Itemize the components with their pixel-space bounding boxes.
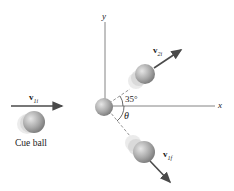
v1f-arrow <box>150 161 170 182</box>
y-axis-label: y <box>102 12 106 21</box>
angle-theta-label: θ <box>124 111 129 121</box>
ball-2-final <box>135 64 155 84</box>
cue-ball-final <box>133 141 155 163</box>
angle-35-label: 35° <box>125 95 138 104</box>
cue-ball-initial <box>23 111 45 133</box>
angle-arc-35 <box>120 96 123 106</box>
v2-label: v2i <box>153 46 162 57</box>
angle-arc-theta <box>117 106 124 121</box>
v1i-label: v1i <box>29 93 38 104</box>
x-axis-label: x <box>218 101 222 110</box>
v1f-label: v1f <box>163 150 172 161</box>
cue-ball-label: Cue ball <box>15 139 47 149</box>
target-ball <box>95 98 113 116</box>
